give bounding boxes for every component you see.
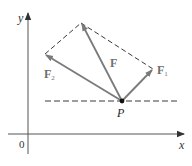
point-p-label: P (117, 107, 124, 119)
diagram-canvas (0, 0, 192, 166)
vector-f1-label: F1 (157, 64, 168, 78)
vector-f-label-text: F (110, 56, 117, 70)
vector-f-label: F (110, 57, 117, 69)
vector-f2-subscript: 2 (51, 74, 55, 82)
vector-diagram: y x 0 P F F1 F2 (0, 0, 192, 166)
vector-f1-arrow (122, 70, 152, 101)
point-p-dot (120, 99, 125, 104)
y-axis-label: y (18, 12, 23, 24)
origin-label: 0 (19, 139, 25, 150)
vector-f2-label: F2 (44, 68, 55, 82)
x-axis-label: x (179, 139, 184, 151)
vector-f1-subscript: 1 (164, 70, 168, 78)
parallelogram-side-left (45, 23, 81, 54)
